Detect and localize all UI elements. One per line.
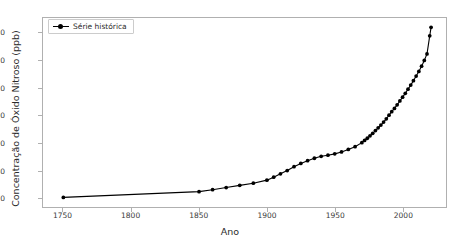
y-tick-mark — [38, 88, 42, 89]
legend-marker-icon — [53, 26, 69, 27]
data-point — [238, 183, 242, 187]
data-point — [319, 154, 323, 158]
data-point — [420, 64, 424, 68]
data-point — [346, 148, 350, 152]
data-point — [422, 59, 426, 63]
data-point — [428, 34, 432, 38]
data-point — [371, 131, 375, 135]
data-point — [429, 25, 433, 29]
data-point — [393, 107, 397, 111]
y-axis-label: Concentração de Óxido Nitroso (ppb) — [10, 19, 21, 219]
data-point — [197, 190, 201, 194]
data-point — [299, 162, 303, 166]
data-point — [395, 103, 399, 107]
data-point — [285, 169, 289, 173]
x-tick-label: 1900 — [247, 211, 287, 220]
data-point — [390, 110, 394, 114]
data-point — [409, 83, 413, 87]
y-tick-label: 270 — [0, 194, 5, 203]
figure-canvas: 270280290300310320330 175018001850190019… — [0, 0, 460, 245]
x-tick-mark — [267, 208, 268, 212]
data-point — [398, 99, 402, 103]
data-point — [376, 126, 380, 130]
x-tick-label: 1750 — [42, 211, 82, 220]
data-point — [387, 113, 391, 117]
data-point — [292, 165, 296, 169]
data-point — [417, 70, 421, 74]
data-point — [224, 186, 228, 190]
data-point — [382, 120, 386, 124]
data-point — [279, 172, 283, 176]
x-tick-mark — [131, 208, 132, 212]
legend-label: Série histórica — [73, 22, 127, 31]
data-point — [384, 117, 388, 121]
x-tick-mark — [403, 208, 404, 212]
data-point — [379, 123, 383, 127]
y-tick-label: 290 — [0, 138, 5, 147]
data-point — [414, 74, 418, 78]
x-tick-label: 1850 — [179, 211, 219, 220]
data-point — [265, 178, 269, 182]
data-point — [272, 175, 276, 179]
data-point — [251, 181, 255, 185]
data-point — [312, 156, 316, 160]
data-point — [326, 153, 330, 157]
data-point — [61, 196, 65, 200]
x-tick-mark — [199, 208, 200, 212]
y-tick-mark — [38, 198, 42, 199]
y-tick-mark — [38, 115, 42, 116]
data-point — [306, 159, 310, 163]
x-tick-label: 1950 — [315, 211, 355, 220]
x-tick-label: 2000 — [383, 211, 423, 220]
x-tick-mark — [62, 208, 63, 212]
y-tick-label: 320 — [0, 55, 5, 64]
y-tick-mark — [38, 32, 42, 33]
data-point — [333, 152, 337, 156]
x-tick-label: 1800 — [111, 211, 151, 220]
data-point — [340, 150, 344, 154]
data-point — [374, 129, 378, 133]
chart-legend: Série histórica — [48, 19, 134, 34]
y-tick-mark — [38, 60, 42, 61]
data-point — [425, 52, 429, 56]
y-tick-label: 330 — [0, 28, 5, 37]
x-axis-label: Ano — [0, 226, 460, 237]
plot-area — [42, 17, 447, 208]
data-plot — [43, 18, 446, 207]
figure-title — [0, 0, 460, 1]
data-point — [211, 188, 215, 192]
data-point — [412, 79, 416, 83]
data-point — [403, 91, 407, 95]
x-tick-mark — [335, 208, 336, 212]
y-tick-mark — [38, 171, 42, 172]
y-tick-mark — [38, 143, 42, 144]
y-tick-label: 280 — [0, 166, 5, 175]
series-markers-serie-historica — [61, 25, 433, 199]
data-point — [406, 87, 410, 91]
data-point — [401, 95, 405, 99]
series-line-serie-historica — [63, 27, 431, 197]
y-tick-label: 310 — [0, 83, 5, 92]
data-point — [353, 145, 357, 149]
y-tick-label: 300 — [0, 111, 5, 120]
